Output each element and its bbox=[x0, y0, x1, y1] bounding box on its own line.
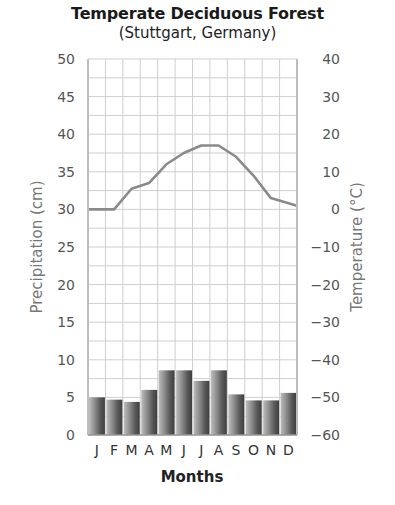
left-axis-ticks: 05101520253035404550 bbox=[57, 51, 75, 443]
precipitation-bar bbox=[211, 370, 227, 435]
svg-text:−60: −60 bbox=[310, 427, 340, 443]
svg-text:30: 30 bbox=[57, 201, 75, 217]
svg-text:N: N bbox=[266, 442, 276, 458]
svg-text:20: 20 bbox=[57, 277, 75, 293]
right-axis-label: Temperature (°C) bbox=[348, 182, 366, 312]
svg-text:O: O bbox=[248, 442, 259, 458]
svg-text:30: 30 bbox=[322, 89, 340, 105]
left-axis-label: Precipitation (cm) bbox=[28, 180, 46, 313]
svg-text:S: S bbox=[232, 442, 241, 458]
svg-text:25: 25 bbox=[57, 239, 75, 255]
svg-text:J: J bbox=[198, 442, 203, 458]
svg-text:5: 5 bbox=[66, 389, 75, 405]
right-axis-ticks: 403020100−10−20−30−40−50−60 bbox=[310, 51, 340, 443]
precipitation-bar bbox=[246, 400, 262, 435]
svg-text:15: 15 bbox=[57, 314, 75, 330]
precipitation-bar bbox=[281, 393, 297, 435]
svg-text:M: M bbox=[125, 442, 137, 458]
svg-text:A: A bbox=[144, 442, 154, 458]
svg-text:−40: −40 bbox=[310, 352, 340, 368]
precipitation-bar bbox=[141, 390, 157, 435]
svg-text:50: 50 bbox=[57, 51, 75, 67]
svg-text:40: 40 bbox=[322, 51, 340, 67]
precipitation-bar bbox=[176, 370, 192, 435]
svg-text:J: J bbox=[94, 442, 99, 458]
svg-text:A: A bbox=[214, 442, 224, 458]
precipitation-bar bbox=[89, 397, 105, 435]
precipitation-bar bbox=[194, 381, 210, 435]
precipitation-bar bbox=[159, 370, 175, 435]
climate-chart: 05101520253035404550 403020100−10−20−30−… bbox=[0, 0, 395, 505]
svg-text:45: 45 bbox=[57, 89, 75, 105]
svg-text:−30: −30 bbox=[310, 314, 340, 330]
precipitation-bar bbox=[106, 400, 122, 435]
svg-text:F: F bbox=[110, 442, 118, 458]
precipitation-bar bbox=[124, 402, 140, 435]
svg-text:35: 35 bbox=[57, 164, 75, 180]
svg-text:0: 0 bbox=[66, 427, 75, 443]
grid-lines bbox=[88, 59, 297, 435]
svg-text:−50: −50 bbox=[310, 389, 340, 405]
svg-text:0: 0 bbox=[331, 201, 340, 217]
precipitation-bar bbox=[228, 394, 244, 435]
svg-text:40: 40 bbox=[57, 126, 75, 142]
svg-text:10: 10 bbox=[322, 164, 340, 180]
month-labels: JFMAMJJASOND bbox=[94, 442, 294, 458]
svg-text:D: D bbox=[283, 442, 294, 458]
svg-text:−20: −20 bbox=[310, 277, 340, 293]
svg-text:10: 10 bbox=[57, 352, 75, 368]
precipitation-bar bbox=[263, 400, 279, 435]
svg-text:20: 20 bbox=[322, 126, 340, 142]
svg-text:J: J bbox=[181, 442, 186, 458]
x-axis-label: Months bbox=[161, 468, 224, 486]
svg-text:M: M bbox=[160, 442, 172, 458]
svg-text:−10: −10 bbox=[310, 239, 340, 255]
